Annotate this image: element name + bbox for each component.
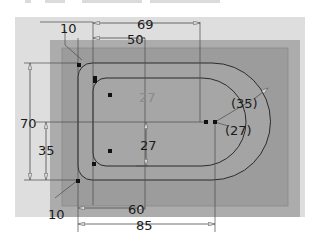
dim-radius-35[interactable]: (35) bbox=[231, 96, 258, 111]
cad-sketch-canvas: 10 69 50 27 70 35 27 (35) (27) 10 60 85 bbox=[0, 0, 318, 249]
dim-width-50[interactable]: 50 bbox=[127, 32, 144, 47]
dim-height-35[interactable]: 35 bbox=[38, 143, 55, 158]
dim-bottom-corner-radius[interactable]: 10 bbox=[48, 207, 65, 222]
dim-top-corner-radius[interactable]: 10 bbox=[60, 21, 77, 36]
dim-inner-27[interactable]: 27 bbox=[140, 138, 157, 153]
ghost-label-27: 27 bbox=[139, 90, 156, 105]
cropped-header-text bbox=[25, 0, 220, 3]
dim-width-60[interactable]: 60 bbox=[128, 202, 145, 217]
dim-radius-27[interactable]: (27) bbox=[225, 123, 252, 138]
dim-width-85[interactable]: 85 bbox=[136, 218, 153, 233]
dim-height-70[interactable]: 70 bbox=[20, 116, 37, 131]
dim-width-69[interactable]: 69 bbox=[137, 17, 154, 32]
